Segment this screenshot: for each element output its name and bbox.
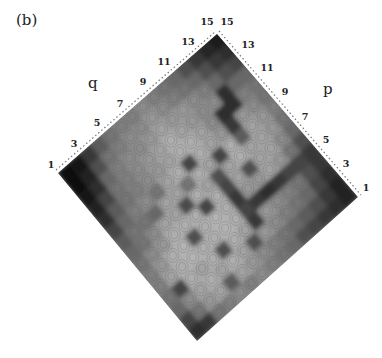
p-tick-label: 13 <box>241 39 254 50</box>
p-tick-label: 11 <box>260 62 273 73</box>
heatmap-area <box>58 29 358 341</box>
q-tick-label: 5 <box>94 117 101 128</box>
p-tick-label: 9 <box>282 86 289 97</box>
q-tick-label: 11 <box>157 56 170 67</box>
q-tick-label: 7 <box>117 98 124 109</box>
p-tick-label: 7 <box>302 111 309 122</box>
q-tick-label: 3 <box>71 138 78 149</box>
p-tick-label: 15 <box>220 16 233 27</box>
heatmap-figure: 13579111315 13579111315 <box>0 0 382 358</box>
p-tick-label: 3 <box>343 158 350 169</box>
q-tick-label: 9 <box>140 76 147 87</box>
q-tick-label: 1 <box>48 159 55 170</box>
p-tick-label: 1 <box>363 182 370 193</box>
p-tick-label: 5 <box>323 134 330 145</box>
q-tick-label: 15 <box>200 16 213 27</box>
heatmap-cells <box>58 29 358 341</box>
q-tick-label: 13 <box>181 36 194 47</box>
